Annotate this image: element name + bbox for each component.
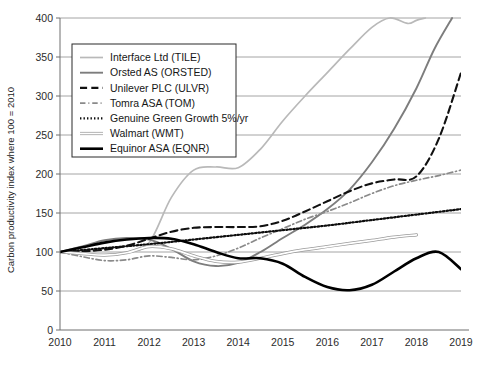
legend-label: Tomra ASA (TOM) bbox=[110, 97, 195, 109]
x-tick-label: 2016 bbox=[316, 336, 340, 348]
legend-label: Equinor ASA (EQNR) bbox=[110, 142, 209, 154]
x-tick-label: 2019 bbox=[449, 336, 473, 348]
x-tick-label: 2010 bbox=[48, 336, 72, 348]
y-tick-label: 250 bbox=[35, 129, 53, 141]
y-tick-label: 100 bbox=[35, 246, 53, 258]
legend-label: Unilever PLC (ULVR) bbox=[110, 82, 209, 94]
series-line bbox=[60, 209, 461, 252]
legend-label: Walmart (WMT) bbox=[110, 127, 184, 139]
y-tick-label: 350 bbox=[35, 51, 53, 63]
x-tick-label: 2015 bbox=[271, 336, 295, 348]
y-axis-title-group: Carbon productivity index where 100 = 20… bbox=[5, 87, 16, 273]
x-tick-label: 2018 bbox=[405, 336, 429, 348]
x-tick-label: 2013 bbox=[182, 336, 206, 348]
x-tick-label: 2012 bbox=[137, 336, 161, 348]
chart-canvas: 0501001502002503003504002010201120122013… bbox=[0, 0, 498, 372]
y-tick-label: 150 bbox=[35, 207, 53, 219]
carbon-productivity-chart: 0501001502002503003504002010201120122013… bbox=[0, 0, 498, 372]
y-tick-label: 50 bbox=[41, 285, 53, 297]
x-tick-label: 2017 bbox=[360, 336, 384, 348]
y-tick-label: 0 bbox=[47, 324, 53, 336]
y-tick-label: 400 bbox=[35, 12, 53, 24]
y-axis-title: Carbon productivity index where 100 = 20… bbox=[5, 87, 16, 273]
x-tick-label: 2014 bbox=[227, 336, 251, 348]
x-tick-label: 2011 bbox=[93, 336, 116, 348]
y-tick-label: 200 bbox=[35, 168, 53, 180]
legend-label: Orsted AS (ORSTED) bbox=[110, 66, 212, 78]
legend-label: Genuine Green Growth 5%/yr bbox=[110, 112, 249, 124]
y-tick-label: 300 bbox=[35, 90, 53, 102]
legend-label: Interface Ltd (TILE) bbox=[110, 51, 200, 63]
legend: Interface Ltd (TILE)Orsted AS (ORSTED)Un… bbox=[72, 44, 249, 157]
